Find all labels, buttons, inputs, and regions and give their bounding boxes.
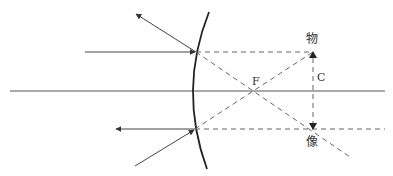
dashed-upper-to-focus [196, 52, 350, 157]
object-arrowhead [309, 51, 317, 58]
object-label: 物 [306, 32, 318, 46]
ray-diagram: 物 像 F C [0, 0, 393, 176]
image-label: 像 [306, 135, 318, 149]
incident-ray-lower [135, 130, 194, 166]
reflected-ray-upper [136, 14, 196, 52]
center-label: C [317, 71, 325, 84]
focus-label: F [252, 75, 260, 88]
